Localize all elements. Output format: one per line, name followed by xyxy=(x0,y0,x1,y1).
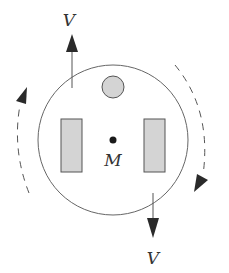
diagram-canvas: M V V xyxy=(0,0,229,273)
top-velocity-label: V xyxy=(63,10,77,30)
small-circle xyxy=(102,76,124,98)
right-block xyxy=(144,119,165,172)
center-dot xyxy=(110,137,117,144)
left-block xyxy=(61,119,82,172)
center-label: M xyxy=(103,150,122,170)
bottom-velocity-label: V xyxy=(147,248,161,268)
left-rotation-arrow-icon xyxy=(16,87,29,193)
bottom-velocity-arrow-icon xyxy=(147,193,159,238)
